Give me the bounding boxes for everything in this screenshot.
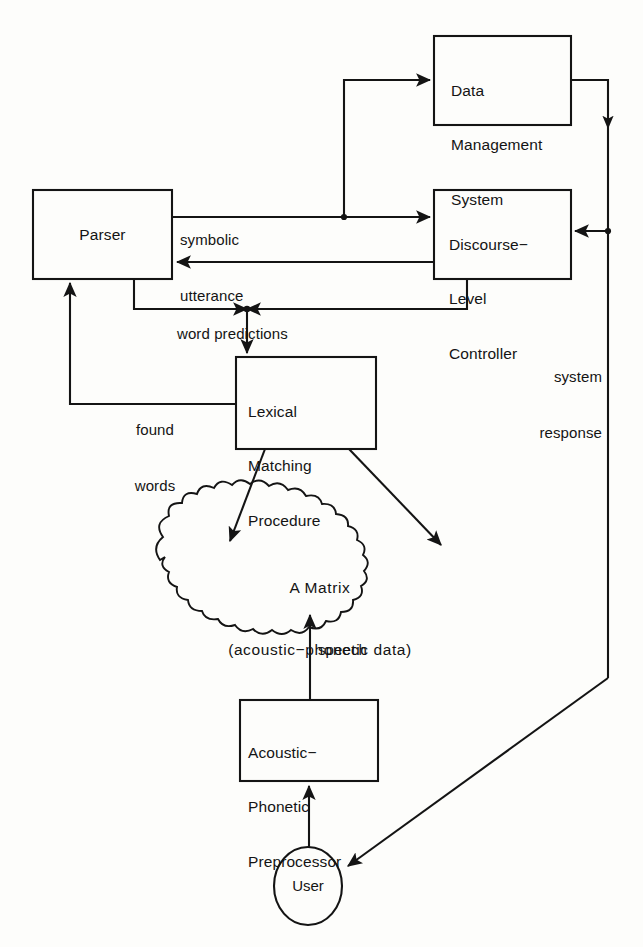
- parser-box: [33, 190, 172, 279]
- junction-dot-symbolic: [341, 214, 347, 220]
- discourse-level-controller-box: [434, 190, 571, 279]
- acoustic-phonetic-preprocessor-box: [240, 700, 378, 781]
- junction-dot-rail-discourse: [605, 228, 611, 234]
- edge-parser-to-dms: [344, 80, 430, 217]
- user-node: [274, 847, 342, 925]
- a-matrix-cloud: [156, 480, 368, 634]
- edge-system-response-to-user: [348, 678, 608, 866]
- lexical-matching-procedure-box: [236, 357, 376, 449]
- edge-lexical-to-matrix-right: [349, 449, 441, 545]
- edge-dms-right-rail: [571, 80, 608, 128]
- diagram-vector-layer: [0, 0, 643, 947]
- data-management-system-box: [434, 36, 571, 125]
- edge-parser-to-bus: [134, 279, 247, 309]
- diagram-canvas: Data Management System Parser Discourse−…: [0, 0, 643, 947]
- edge-found-words: [70, 283, 236, 404]
- edge-discourse-to-bus: [247, 279, 467, 309]
